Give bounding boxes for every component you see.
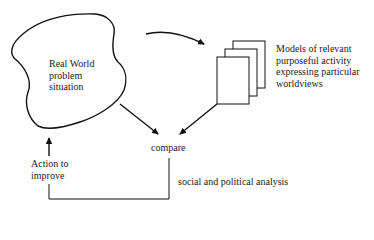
models-label: Models of relevant purposeful activity e… (276, 43, 360, 89)
stacked-pages-icon (217, 41, 265, 104)
social-political-analysis-label: social and political analysis (178, 176, 288, 188)
real-world-label: Real World problem situation (49, 58, 94, 93)
arrow-blob-to-compare (120, 104, 158, 134)
action-to-improve-label: Action to improve (31, 158, 69, 181)
compare-label: compare (151, 142, 185, 154)
arrow-models-to-compare (180, 104, 217, 134)
curved-arrow-to-models (146, 32, 204, 44)
